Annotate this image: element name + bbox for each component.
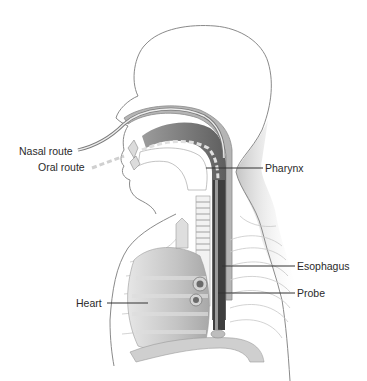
anatomy-diagram: Nasal route Oral route Pharynx Esophagus… (0, 0, 367, 381)
label-pharynx: Pharynx (265, 162, 304, 174)
label-oral-route: Oral route (38, 161, 85, 173)
label-probe: Probe (297, 287, 325, 299)
label-heart: Heart (76, 297, 102, 309)
oral-route-dashes (92, 156, 124, 168)
label-esophagus: Esophagus (297, 260, 350, 272)
label-nasal-route: Nasal route (19, 145, 73, 157)
